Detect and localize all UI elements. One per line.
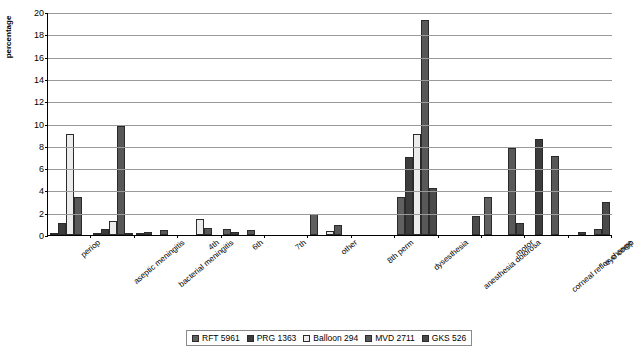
y-axis-tick-mark — [45, 102, 48, 103]
x-axis-label: 6th — [250, 238, 264, 252]
bar — [93, 233, 101, 235]
legend-swatch-icon — [365, 335, 372, 342]
bar — [578, 232, 586, 235]
bar — [144, 232, 152, 235]
gridline — [48, 58, 612, 59]
gridline — [48, 169, 612, 170]
x-axis-label: aseptic meningitis — [132, 238, 187, 286]
legend-swatch-icon — [247, 335, 254, 342]
y-axis-tick-label: 10 — [22, 121, 44, 130]
y-axis-tick-label: 20 — [22, 9, 44, 18]
bar — [74, 197, 82, 235]
y-axis-tick-label: 16 — [22, 54, 44, 63]
y-axis-tick-mark — [45, 35, 48, 36]
legend-label: RFT 5961 — [202, 333, 240, 343]
bar — [602, 202, 610, 235]
bar — [310, 214, 318, 235]
bar — [160, 230, 168, 235]
bar — [413, 134, 421, 235]
legend-label: Balloon 294 — [313, 333, 358, 343]
y-axis-tick-label: 2 — [22, 210, 44, 219]
bar — [66, 134, 74, 235]
x-axis-label: periop — [79, 238, 102, 259]
y-axis-tick-mark — [45, 236, 48, 237]
bar — [223, 229, 231, 235]
bar — [204, 228, 212, 235]
y-axis-tick-label: 12 — [22, 98, 44, 107]
gridline — [48, 191, 612, 192]
legend-swatch-icon — [303, 335, 310, 342]
y-axis-tick-label: 8 — [22, 143, 44, 152]
gridline — [48, 214, 612, 215]
bar — [334, 225, 342, 235]
y-axis-tick-label: 4 — [22, 187, 44, 196]
bar — [231, 232, 239, 235]
y-axis-tick-label: 14 — [22, 76, 44, 85]
bar — [421, 20, 429, 235]
bar — [484, 197, 492, 235]
bar — [117, 126, 125, 235]
y-axis-title: percentage — [4, 0, 13, 82]
y-axis-tick-label: 18 — [22, 31, 44, 40]
bar — [551, 156, 559, 235]
bar — [516, 223, 524, 235]
y-axis-tick-mark — [45, 214, 48, 215]
bar — [50, 233, 58, 235]
bar — [101, 229, 109, 235]
y-axis-tick-mark — [45, 58, 48, 59]
chart-legend: RFT 5961PRG 1363Balloon 294MVD 2711GKS 5… — [186, 330, 472, 346]
legend-swatch-icon — [422, 335, 429, 342]
y-axis-tick-mark — [45, 13, 48, 14]
bar — [196, 219, 204, 235]
legend-item[interactable]: GKS 526 — [422, 333, 467, 343]
x-axis-label: bacterial meningitis — [177, 238, 235, 289]
legend-item[interactable]: Balloon 294 — [303, 333, 358, 343]
bar — [109, 221, 117, 235]
x-axis-label: 8th perm — [386, 238, 416, 265]
bar — [58, 223, 66, 235]
bar — [472, 216, 480, 235]
legend-label: MVD 2711 — [375, 333, 415, 343]
legend-swatch-icon — [192, 335, 199, 342]
y-axis-tick-label: 6 — [22, 165, 44, 174]
gridline — [48, 125, 612, 126]
x-axis-label: 7th — [294, 238, 308, 252]
y-axis-tick-label: 0 — [22, 232, 44, 241]
x-axis-label: other — [339, 238, 359, 257]
figure-caption — [4, 345, 194, 355]
x-axis-label: eye comp — [604, 238, 636, 267]
bar — [326, 231, 334, 235]
y-axis-tick-mark — [45, 147, 48, 148]
bar — [136, 233, 144, 235]
plot-area: 02468101214161820 — [47, 13, 612, 236]
y-axis-tick-mark — [45, 80, 48, 81]
bar — [594, 229, 602, 235]
legend-item[interactable]: PRG 1363 — [247, 333, 297, 343]
bar — [247, 230, 255, 235]
y-axis-tick-mark — [45, 191, 48, 192]
legend-item[interactable]: MVD 2711 — [365, 333, 415, 343]
legend-label: PRG 1363 — [257, 333, 297, 343]
gridline — [48, 147, 612, 148]
legend-label: GKS 526 — [432, 333, 467, 343]
bar — [429, 188, 437, 235]
x-axis-labels: periopaseptic meningitisbacterial mening… — [47, 238, 612, 318]
gridline — [48, 13, 612, 14]
y-axis-tick-mark — [45, 125, 48, 126]
bar — [535, 139, 543, 235]
y-axis-tick-mark — [45, 169, 48, 170]
gridline — [48, 35, 612, 36]
legend-item[interactable]: RFT 5961 — [192, 333, 240, 343]
bar — [397, 197, 405, 235]
gridline — [48, 102, 612, 103]
gridline — [48, 80, 612, 81]
x-axis-label: dysesthesia — [432, 238, 470, 272]
bar — [125, 233, 133, 235]
